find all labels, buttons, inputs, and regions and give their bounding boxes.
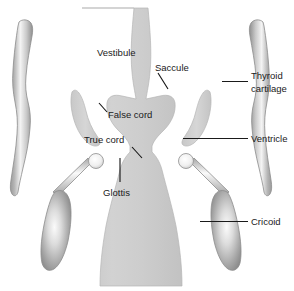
label-thyroid-cartilage-line1: Thyroid: [251, 70, 283, 81]
label-glottis: Glottis: [103, 187, 130, 198]
larynx-diagram-figure: Vestibule Saccule Thyroid cartilage Fals…: [0, 0, 294, 291]
label-saccule: Saccule: [155, 62, 189, 73]
thyroid-cartilage-right: [249, 20, 271, 196]
label-ventricle: Ventricle: [251, 133, 287, 144]
cricoid-right: [211, 190, 241, 270]
cricoid-left: [41, 190, 71, 270]
arytenoid-node-right: [179, 154, 194, 169]
label-thyroid-cartilage-line2: cartilage: [251, 83, 287, 94]
leader-line-false-cord: [99, 103, 107, 112]
label-false-cord: False cord: [108, 109, 152, 120]
arytenoid-node-left: [89, 154, 104, 169]
label-true-cord: True cord: [84, 134, 124, 145]
thyroid-cartilage-left: [10, 20, 32, 196]
diagram-canvas: Vestibule Saccule Thyroid cartilage Fals…: [0, 0, 294, 291]
leader-line-saccule: [158, 73, 168, 89]
label-vestibule: Vestibule: [97, 47, 136, 58]
label-cricoid: Cricoid: [251, 216, 281, 227]
